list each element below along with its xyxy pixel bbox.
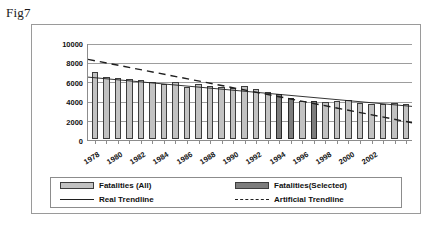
bar-selected bbox=[311, 101, 317, 139]
x-axis-tick bbox=[389, 140, 401, 144]
bar-all bbox=[92, 72, 98, 139]
x-axis-tick bbox=[135, 140, 147, 144]
bar-all bbox=[357, 103, 363, 139]
y-axis-tick-label: 10000 bbox=[62, 40, 83, 49]
bar-all bbox=[138, 80, 144, 139]
bar-cell bbox=[101, 44, 113, 139]
bar-cell bbox=[135, 44, 147, 139]
legend-item: Artificial Trendline bbox=[226, 195, 401, 204]
bar-all bbox=[218, 87, 224, 139]
x-axis-tick bbox=[147, 140, 159, 144]
figure-container: Fig7 0200040006000800010000 197819801982… bbox=[0, 0, 430, 227]
bar-cell bbox=[285, 44, 297, 139]
bar-all bbox=[265, 92, 271, 139]
bar-cell bbox=[320, 44, 332, 139]
bar-series bbox=[89, 44, 412, 139]
legend-swatch-solid-line bbox=[60, 199, 94, 200]
bar-selected bbox=[288, 98, 294, 139]
chart-legend: Fatalities (All) Fatalities(Selected) Re… bbox=[50, 177, 402, 208]
x-axis-tick bbox=[193, 140, 205, 144]
bar-all bbox=[161, 84, 167, 139]
legend-label: Artificial Trendline bbox=[274, 195, 344, 204]
x-axis-ticks bbox=[89, 140, 412, 144]
bar-all bbox=[391, 103, 397, 139]
y-axis-tick-label: 8000 bbox=[66, 59, 83, 68]
bar-all bbox=[403, 104, 409, 139]
bar-cell bbox=[147, 44, 159, 139]
x-axis-tick-label: 1998 bbox=[314, 150, 333, 166]
x-axis-tick bbox=[204, 140, 216, 144]
x-axis-tick bbox=[308, 140, 320, 144]
x-axis-tick bbox=[89, 140, 101, 144]
bar-cell bbox=[343, 44, 355, 139]
bar-all bbox=[299, 101, 305, 139]
x-axis-tick bbox=[181, 140, 193, 144]
bar-cell bbox=[262, 44, 274, 139]
legend-item: Fatalities (All) bbox=[51, 181, 226, 190]
bar-cell bbox=[400, 44, 412, 139]
bar-cell bbox=[181, 44, 193, 139]
figure-label: Fig7 bbox=[6, 5, 31, 21]
x-axis-tick bbox=[112, 140, 124, 144]
y-axis-labels: 0200040006000800010000 bbox=[35, 44, 83, 141]
bar-cell bbox=[297, 44, 309, 139]
y-axis-tick-label: 0 bbox=[79, 137, 83, 146]
bar-cell bbox=[366, 44, 378, 139]
x-axis-tick bbox=[297, 140, 309, 144]
x-axis-tick bbox=[101, 140, 113, 144]
x-axis-tick bbox=[170, 140, 182, 144]
bar-all bbox=[103, 77, 109, 139]
x-axis-tick bbox=[366, 140, 378, 144]
y-axis-tick-label: 4000 bbox=[66, 98, 83, 107]
x-axis-tick-label: 1980 bbox=[105, 150, 124, 166]
x-axis-tick-label: 1996 bbox=[291, 150, 310, 166]
bar-cell bbox=[389, 44, 401, 139]
x-axis-tick-label: 1994 bbox=[268, 150, 287, 166]
bar-cell bbox=[250, 44, 262, 139]
bar-cell bbox=[308, 44, 320, 139]
x-axis-tick-label: 1988 bbox=[198, 150, 217, 166]
x-axis-tick-label: 1990 bbox=[221, 150, 240, 166]
bar-all bbox=[172, 82, 178, 139]
x-axis-tick bbox=[377, 140, 389, 144]
x-axis-tick bbox=[158, 140, 170, 144]
x-axis-tick bbox=[124, 140, 136, 144]
bar-cell bbox=[170, 44, 182, 139]
bar-cell bbox=[354, 44, 366, 139]
bar-cell bbox=[112, 44, 124, 139]
bar-cell bbox=[124, 44, 136, 139]
x-axis-tick bbox=[239, 140, 251, 144]
x-axis-tick-label: 1992 bbox=[244, 150, 263, 166]
legend-label: Real Trendline bbox=[99, 195, 154, 204]
x-axis-tick bbox=[343, 140, 355, 144]
bar-cell bbox=[331, 44, 343, 139]
plot-wrapper: 0200040006000800010000 bbox=[87, 44, 412, 141]
x-axis-tick bbox=[331, 140, 343, 144]
bar-cell bbox=[89, 44, 101, 139]
legend-label: Fatalities (All) bbox=[99, 181, 151, 190]
bar-all bbox=[380, 104, 386, 139]
x-axis-tick bbox=[216, 140, 228, 144]
legend-swatch-bar-selected bbox=[235, 182, 269, 189]
bar-all bbox=[230, 88, 236, 139]
legend-item: Fatalities(Selected) bbox=[226, 181, 401, 190]
x-axis-tick-label: 1982 bbox=[128, 150, 147, 166]
bar-all bbox=[184, 87, 190, 139]
bar-all bbox=[126, 79, 132, 139]
bar-cell bbox=[239, 44, 251, 139]
chart-frame: 0200040006000800010000 19781980198219841… bbox=[31, 24, 421, 214]
x-axis-tick bbox=[354, 140, 366, 144]
legend-item: Real Trendline bbox=[51, 195, 226, 204]
bar-all bbox=[253, 89, 259, 139]
bar-all bbox=[334, 101, 340, 139]
x-axis-tick bbox=[400, 140, 412, 144]
x-axis-tick bbox=[262, 140, 274, 144]
legend-swatch-bar-all bbox=[60, 182, 94, 189]
x-axis-tick bbox=[227, 140, 239, 144]
bar-all bbox=[322, 102, 328, 139]
bar-all bbox=[345, 100, 351, 139]
x-axis-labels: 1978198019821984198619881990199219941996… bbox=[88, 147, 413, 177]
bar-cell bbox=[204, 44, 216, 139]
x-axis-tick-label: 1986 bbox=[175, 150, 194, 166]
bar-all bbox=[207, 86, 213, 139]
